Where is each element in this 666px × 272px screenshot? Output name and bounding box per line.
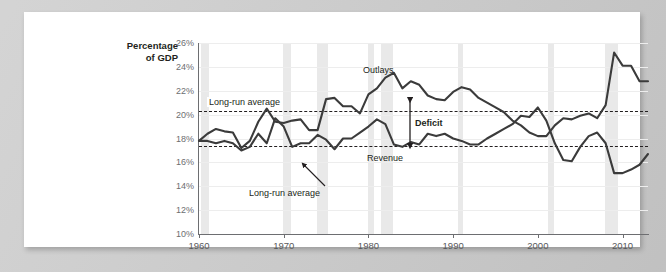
x-axis-tick-mark [623,234,624,238]
outlays-average-label: Long-run average [207,97,282,107]
y-axis-tick-label: 22% [176,86,194,96]
deficit-label: Deficit [415,118,443,128]
y-axis-title: Percentage of GDP [86,40,178,63]
y-axis-tick-label: 10% [176,229,194,239]
x-axis-tick-mark [453,234,454,238]
y-axis-title-line1: Percentage [86,40,178,52]
revenue-label: Revenue [367,153,403,163]
chart-card: Percentage of GDP 26%24%22%20%18%16%14%1… [24,12,640,247]
x-axis-tick-label: 2000 [527,240,548,251]
x-axis-tick-label: 2010 [612,240,633,251]
x-axis-line [198,234,649,235]
x-axis-tick-label: 1990 [443,240,464,251]
y-axis-tick-label: 16% [176,157,194,167]
x-axis-tick-mark [368,234,369,238]
annotation-arrows [199,43,648,234]
y-axis-tick-label: 24% [176,62,194,72]
outlays-label: Outlays [363,65,394,75]
y-axis-tick-label: 14% [176,181,194,191]
x-axis-tick-mark [538,234,539,238]
y-axis-tick-label: 26% [176,38,194,48]
x-axis-tick-mark [284,234,285,238]
y-axis-tick-label: 20% [176,110,194,120]
revenue-average-label: Long-run average [249,188,320,198]
plot-area: 26%24%22%20%18%16%14%12%10% 196019701980… [199,43,648,234]
revenue-average-pointer-arrow [303,164,325,186]
x-axis-tick-label: 1960 [188,240,209,251]
chart-page: Percentage of GDP 26%24%22%20%18%16%14%1… [0,0,666,272]
y-axis-tick-label: 18% [176,134,194,144]
x-axis-tick-mark [199,234,200,238]
y-axis-tick-label: 12% [176,205,194,215]
x-axis-tick-label: 1970 [273,240,294,251]
x-axis-tick-label: 1980 [358,240,379,251]
y-axis-title-line2: of GDP [86,52,178,64]
